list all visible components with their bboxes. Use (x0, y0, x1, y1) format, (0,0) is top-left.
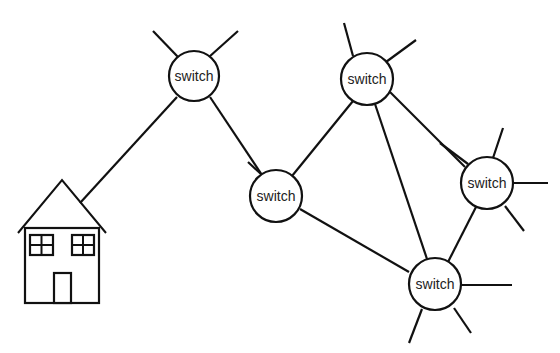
stub-s4-nw (440, 143, 468, 164)
switch-label: switch (416, 276, 455, 292)
switch-node-1: switch (169, 51, 219, 101)
house-door (54, 273, 71, 303)
edge-s4-s5 (448, 207, 476, 262)
stub-s4-n (493, 128, 503, 158)
stub-s2-n (344, 23, 353, 56)
stub-s5-se (454, 308, 471, 333)
switch-label: switch (348, 71, 387, 87)
stub-s4-se (505, 206, 524, 231)
edge-house-s1 (80, 97, 177, 203)
switch-node-3: switch (250, 170, 302, 222)
switch-node-2: switch (341, 53, 393, 105)
edge-s3-s5 (300, 209, 409, 272)
stub-s2-ne (386, 40, 416, 62)
edge-s2-s4 (390, 92, 465, 167)
stub-s1-ne (209, 31, 238, 57)
house-icon (18, 180, 106, 303)
switch-node-5: switch (409, 258, 461, 310)
network-diagram: switch switch switch switch switch (0, 0, 560, 353)
edge-s2-s5 (375, 104, 427, 259)
edge-s3-s2 (292, 101, 353, 176)
stub-s1-nw (153, 31, 178, 57)
switch-label: switch (175, 68, 214, 84)
switch-label: switch (257, 188, 296, 204)
edge-s1-s3 (210, 97, 262, 175)
stub-s5-sw (409, 309, 422, 343)
switch-label: switch (468, 175, 507, 191)
switch-node-4: switch (461, 157, 513, 209)
